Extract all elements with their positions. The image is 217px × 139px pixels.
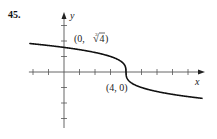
- function-graph: y x (0, 3 √ 4 ) (4, 0): [0, 0, 217, 139]
- svg-text:4: 4: [100, 33, 105, 44]
- svg-text:): ): [105, 33, 108, 45]
- svg-text:(0,: (0,: [74, 33, 85, 45]
- x-axis-label: x: [194, 76, 200, 87]
- point-label-x-intercept: (4, 0): [106, 82, 128, 94]
- y-axis-arrow-icon: [62, 12, 67, 19]
- axes: [29, 12, 205, 128]
- x-axis-arrow-icon: [198, 70, 205, 75]
- point-label-y-intercept: (0, 3 √ 4 ): [74, 32, 108, 45]
- y-axis-label: y: [69, 10, 75, 21]
